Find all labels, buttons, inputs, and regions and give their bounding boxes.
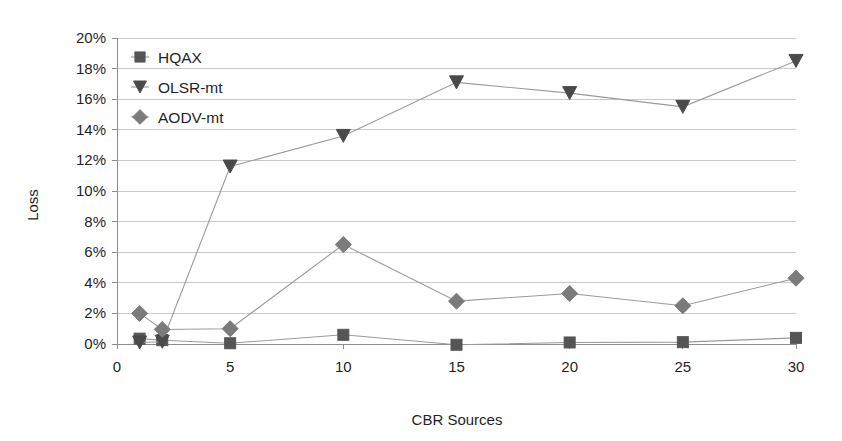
x-tick-label: 25 (674, 358, 691, 375)
y-tick-label: 14% (76, 121, 106, 138)
y-tick-label: 20% (76, 29, 106, 46)
legend-label: AODV-mt (158, 109, 224, 126)
chart-legend: HQAXOLSR-mtAODV-mt (131, 49, 224, 126)
y-tick-label: 16% (76, 90, 106, 107)
y-tick-label: 2% (84, 304, 106, 321)
marker-square (564, 337, 575, 348)
y-tick-label: 10% (76, 182, 106, 199)
legend-item-aodv-mt: AODV-mt (131, 109, 224, 126)
y-axis-tick-labels: 0%2%4%6%8%10%12%14%16%18%20% (76, 29, 106, 352)
marker-diamond (222, 321, 238, 337)
x-tick-label: 5 (226, 358, 234, 375)
loss-vs-cbr-sources-line-chart: 0%2%4%6%8%10%12%14%16%18%20% 05101520253… (0, 0, 842, 441)
x-axis-title: CBR Sources (412, 411, 503, 428)
marker-diamond (675, 298, 691, 314)
marker-diamond (788, 270, 804, 286)
x-tick-label: 15 (448, 358, 465, 375)
legend-item-olsr-mt: OLSR-mt (131, 79, 223, 96)
marker-square (791, 332, 802, 343)
marker-square (677, 337, 688, 348)
series-aodv-mt (132, 237, 804, 338)
y-tick-label: 4% (84, 274, 106, 291)
marker-triangle-down (223, 160, 237, 173)
y-axis-title: Loss (24, 189, 41, 221)
marker-triangle-down (676, 100, 690, 113)
series-line (140, 335, 796, 345)
marker-triangle-down (789, 54, 803, 67)
x-axis-tick-labels: 051015202530 (113, 358, 805, 375)
x-tick-label: 30 (788, 358, 805, 375)
marker-triangle-down (336, 129, 350, 142)
x-tick-label: 0 (113, 358, 121, 375)
marker-square (225, 338, 236, 349)
y-tick-label: 0% (84, 335, 106, 352)
marker-diamond (132, 305, 148, 321)
x-tick-label: 10 (335, 358, 352, 375)
legend-label: OLSR-mt (158, 79, 223, 96)
y-tick-label: 18% (76, 60, 106, 77)
series-line (140, 245, 796, 330)
y-tick-label: 8% (84, 213, 106, 230)
legend-label: HQAX (158, 49, 203, 66)
marker-square (135, 52, 145, 62)
y-tick-label: 6% (84, 243, 106, 260)
x-tick-label: 20 (561, 358, 578, 375)
marker-square (451, 339, 462, 350)
y-tick-label: 12% (76, 151, 106, 168)
marker-diamond (449, 293, 465, 309)
legend-item-hqax: HQAX (131, 49, 203, 66)
chart-container: 0%2%4%6%8%10%12%14%16%18%20% 05101520253… (0, 0, 842, 441)
series-olsr-mt (133, 54, 803, 349)
marker-diamond (562, 286, 578, 302)
marker-square (338, 329, 349, 340)
marker-diamond (335, 237, 351, 253)
marker-diamond (133, 110, 148, 125)
